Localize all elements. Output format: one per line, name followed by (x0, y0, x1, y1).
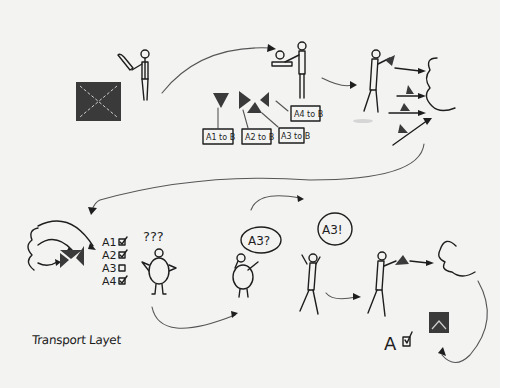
data-block-envelope (76, 82, 121, 121)
final-label: A (384, 333, 397, 354)
person-resending-icon (368, 252, 409, 316)
person-throwing-icon (364, 50, 395, 112)
segment-label-boxes: A1 to B A2 to B A3 to B A4 to B (203, 106, 323, 144)
label-a2: A2 to B (245, 133, 274, 142)
person-with-stamp-icon (272, 42, 306, 98)
arrow-2-to-3 (322, 78, 352, 86)
svg-text:A3!: A3! (322, 223, 343, 237)
caller-receiver-icon (233, 254, 258, 297)
confused-receiver-icon (142, 249, 176, 294)
transport-layer-diagram: A1 to B A2 to B A3 to B A4 to B A1 A2 (0, 0, 516, 388)
label-a3: A3 to B (281, 132, 310, 141)
svg-text:A4: A4 (102, 275, 117, 288)
receiving-cloud-icon (28, 228, 38, 270)
svg-text:A2: A2 (102, 249, 117, 262)
svg-text:A3?: A3? (248, 234, 270, 248)
confusion-marks: ??? (143, 229, 164, 244)
arrow-1-to-2 (162, 48, 270, 93)
person-with-knife-icon (118, 50, 149, 100)
label-a4: A4 to B (294, 110, 323, 119)
checklist: A1 A2 A3 A4 (102, 236, 127, 288)
svg-text:A3: A3 (102, 262, 117, 275)
reassembled-data-block (429, 312, 449, 333)
svg-text:A1: A1 (102, 236, 117, 249)
caller-sender-icon (300, 254, 320, 314)
final-cloud-icon (439, 241, 475, 276)
segment-packets (213, 91, 269, 113)
label-a1: A1 to B (206, 133, 235, 142)
network-cloud-icon (426, 58, 455, 111)
diagram-caption: Transport Layet (32, 333, 122, 347)
